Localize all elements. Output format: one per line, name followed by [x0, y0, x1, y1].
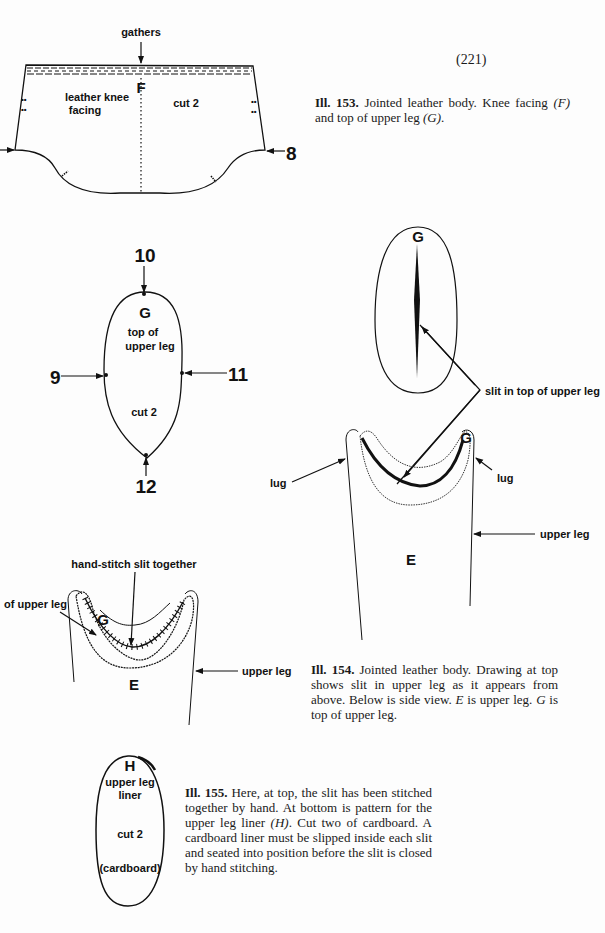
upper-leg-label: upper leg	[540, 528, 590, 540]
piece-letter-g: G	[139, 304, 151, 321]
caption-ill-153: Ill. 153. Jointed leather body. Knee fac…	[315, 95, 570, 125]
top-view-letter-g: G	[412, 228, 424, 245]
lug-label-right: lug	[497, 472, 514, 484]
stitched-slit-view: hand-stitch slit together G E of upper l…	[4, 558, 292, 725]
document-page: (221) gathers F leather knee facing cut …	[0, 0, 605, 933]
slit-top-view: G slit in top of upper leg	[375, 227, 600, 484]
upper-leg-liner-pattern: H upper leg liner cut 2 (cardboard)	[96, 756, 164, 906]
marker-11: 11	[228, 364, 249, 385]
marker-12: 12	[135, 476, 156, 497]
side-view-letter-g: G	[460, 429, 472, 446]
piece-name-2: upper leg	[125, 340, 175, 352]
upper-leg-label-2: upper leg	[242, 665, 292, 677]
liner-cut: cut 2	[117, 828, 143, 840]
caption-ill-154: Ill. 154. Jointed leather body. Drawing …	[311, 662, 558, 722]
liner-material: (cardboard)	[99, 862, 160, 874]
piece-letter-f: F	[136, 79, 145, 96]
top-of-upper-leg-pattern: 10 G top of upper leg cut 2 9 11 12	[50, 245, 249, 497]
liner-name: upper leg	[105, 776, 155, 788]
piece-name: top of	[128, 326, 159, 338]
liner-name-2: liner	[118, 789, 142, 801]
liner-letter-h: H	[125, 757, 136, 774]
slit-label: slit in top of upper leg	[485, 385, 600, 397]
gathers-label: gathers	[121, 26, 161, 38]
svg-text:••: ••	[251, 97, 257, 106]
upper-leg-side-view: G E lug lug upper leg	[270, 429, 590, 640]
piece-name: leather knee	[65, 91, 129, 103]
partial-label: of upper leg	[4, 598, 67, 610]
slit-shape	[414, 244, 420, 378]
side-view-letter-e: E	[406, 551, 416, 568]
svg-text:••: ••	[21, 95, 27, 104]
stitch-label: hand-stitch slit together	[71, 558, 197, 570]
lug-label-left: lug	[270, 477, 287, 489]
svg-text:••: ••	[251, 107, 257, 116]
cut-count: cut 2	[131, 406, 157, 418]
svg-text:••: ••	[21, 105, 27, 114]
knee-facing-pattern: gathers F leather knee facing cut 2 •• •…	[0, 26, 297, 193]
marker-8: 8	[286, 143, 297, 164]
marker-10: 10	[134, 245, 155, 266]
cut-count: cut 2	[173, 97, 199, 109]
piece-name-2: facing	[69, 104, 101, 116]
marker-9: 9	[50, 367, 61, 388]
caption-ill-155: Ill. 155. Here, at top, the slit has bee…	[185, 785, 432, 875]
stitched-letter-e: E	[129, 676, 139, 693]
stitched-letter-g: G	[97, 611, 109, 628]
